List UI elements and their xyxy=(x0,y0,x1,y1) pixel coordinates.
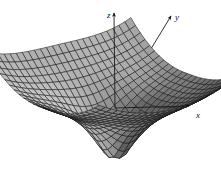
axis-label-z: z xyxy=(106,10,111,20)
axis-label-x: x xyxy=(195,110,200,120)
axis-label-y: y xyxy=(174,12,179,22)
surface-mesh xyxy=(0,18,221,159)
surface-plot-figure: z y x xyxy=(0,0,221,179)
surface-plot-canvas: z y x xyxy=(0,0,221,179)
